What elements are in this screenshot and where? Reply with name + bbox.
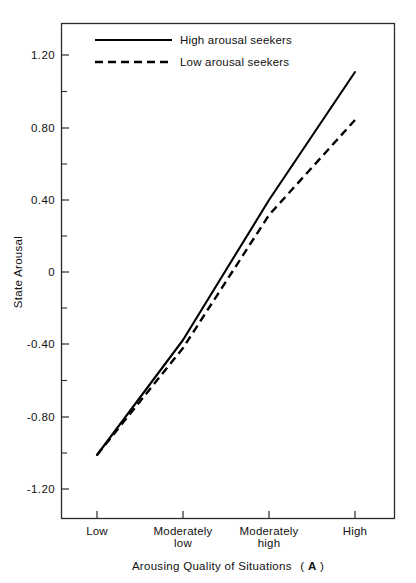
x-axis-title-paren-close: ) [320,560,324,572]
legend-label-high-arousal-seekers: High arousal seekers [180,34,292,46]
y-tick-label-4: -0.40 [27,338,55,350]
y-tick-label-2: 0.40 [31,194,55,206]
x-axis-title-symbol: A [308,560,317,572]
y-tick-label-0: 1.20 [31,49,55,61]
legend-label-low-arousal-seekers: Low arousal seekers [180,56,289,68]
x-category-label-high: High [343,525,367,537]
x-category-label-low: Low [86,525,108,537]
y-tick-label-1: 0.80 [31,122,55,134]
x-axis-title-main: Arousing Quality of Situations [132,560,292,572]
x-category-label-moderately-high-line2: high [258,537,281,549]
x-category-label-moderately-high-line1: Moderately [240,525,299,537]
x-category-label-moderately-low-line1: Moderately [154,525,213,537]
state-arousal-line-chart: 1.20 0.80 0.40 0 -0.40 -0.80 -1.20 State… [0,0,416,583]
y-tick-label-6: -1.20 [27,483,55,495]
y-tick-label-3: 0 [48,266,55,278]
chart-figure: 1.20 0.80 0.40 0 -0.40 -0.80 -1.20 State… [0,0,416,583]
y-axis-title: State Arousal [12,236,24,308]
x-category-label-moderately-low-line2: low [174,537,192,549]
x-axis-title-paren-open: ( [300,560,304,572]
y-tick-label-5: -0.80 [27,411,55,423]
chart-background [0,0,416,583]
